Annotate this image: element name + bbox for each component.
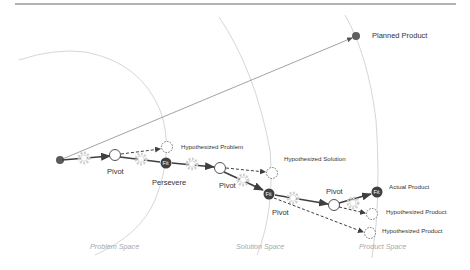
hypothesized-product-node-2 [365, 228, 376, 239]
dashed-path [226, 168, 265, 172]
solution-space-label: Solution Space [236, 242, 284, 251]
gear-icon [238, 175, 248, 185]
hypothesized-solution-label: Hypothesized Solution [284, 155, 346, 162]
pivot-label-4: Pivot [326, 187, 344, 196]
dashed-path [121, 149, 160, 154]
problem-space-arc [19, 51, 166, 255]
hypothesized-product-label-1: Hypothesized Product [386, 208, 447, 215]
pivot-label-2: Pivot [219, 181, 237, 190]
path-segment [275, 195, 328, 204]
pivot-label-1: Pivot [107, 167, 125, 176]
actual-product-label: Actual Product [389, 183, 430, 190]
problem-space-label: Problem Space [90, 242, 139, 251]
solution-space-arc [219, 17, 271, 255]
persevere-label: Persevere [152, 178, 186, 187]
hypothesized-product-node-1 [367, 209, 378, 220]
product-space-arc [345, 15, 378, 258]
gear-icon [288, 193, 298, 203]
pivot-node-2 [215, 163, 226, 174]
planned-trajectory-line [60, 38, 352, 160]
hypothesized-solution-node [267, 168, 278, 179]
hypothesized-problem-node [162, 142, 173, 153]
fit-label-2: Fit [266, 191, 273, 197]
dashed-path [339, 207, 365, 213]
gear-icon [187, 159, 197, 169]
planned-product-label: Planned Product [372, 31, 428, 40]
gear-icon [136, 154, 146, 164]
pivot-label-3: Pivot [272, 208, 290, 217]
pivot-node-3 [329, 200, 340, 211]
pivot-node-1 [110, 150, 121, 161]
hypothesized-problem-label: Hypothesized Problem [181, 143, 243, 150]
gear-icon [79, 153, 89, 163]
fit-label-1: Fit [163, 160, 170, 166]
lean-pivot-diagram: Planned Product Pivot Hypothesized Probl… [0, 0, 470, 270]
hypothesized-product-label-2: Hypothesized Product [382, 227, 443, 234]
product-space-label: Product Space [359, 242, 406, 251]
fit-label-3: Fit [374, 189, 381, 195]
planned-product-dot [352, 32, 360, 40]
